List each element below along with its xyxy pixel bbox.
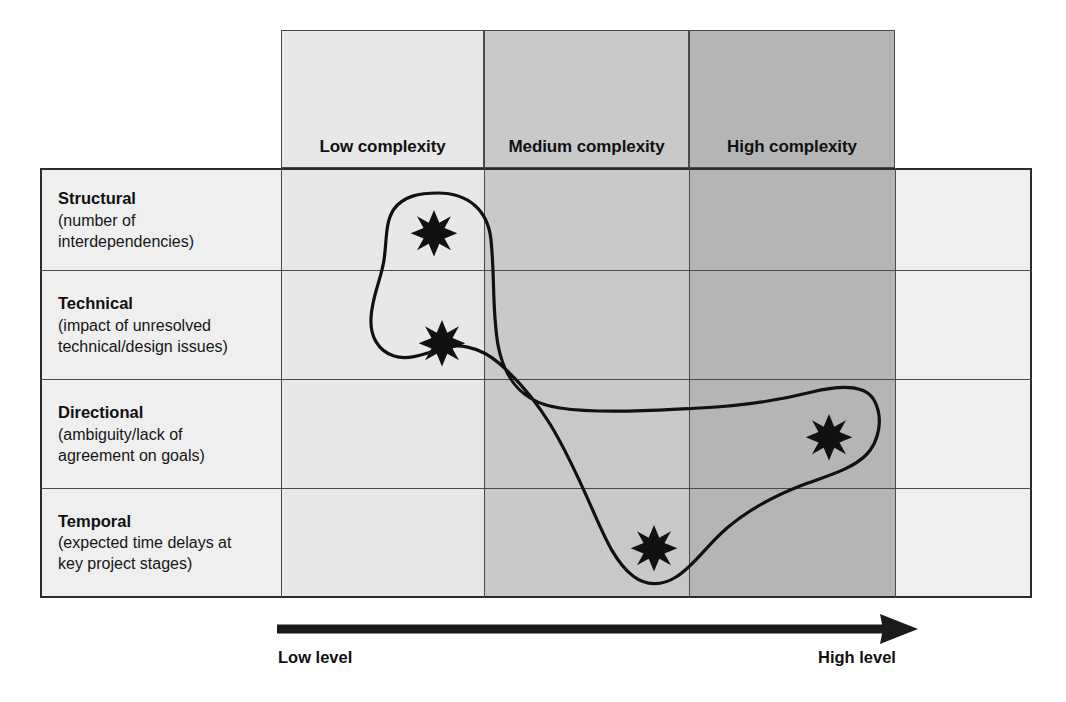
column-separator-high-trailing xyxy=(895,168,896,598)
column-header-label: High complexity xyxy=(727,137,857,157)
column-header-label: Low complexity xyxy=(319,137,445,157)
row-subtitle: (impact of unresolved technical/design i… xyxy=(58,315,281,357)
row-title: Directional xyxy=(58,402,281,424)
complexity-level-arrow xyxy=(277,614,918,644)
column-header-high-complexity: High complexity xyxy=(689,30,895,168)
column-separator-labels xyxy=(281,168,282,598)
row-title: Technical xyxy=(58,293,281,315)
row-label-directional: Directional (ambiguity/lack of agreement… xyxy=(42,380,281,488)
column-header-low-complexity: Low complexity xyxy=(281,30,484,168)
column-header-medium-complexity: Medium complexity xyxy=(484,30,689,168)
column-separator-medium-high xyxy=(689,168,690,598)
column-header-label: Medium complexity xyxy=(508,137,664,157)
column-separator-low-medium xyxy=(484,168,485,598)
row-label-technical: Technical (impact of unresolved technica… xyxy=(42,271,281,379)
row-label-temporal: Temporal (expected time delays at key pr… xyxy=(42,489,281,596)
axis-label-high-level: High level xyxy=(818,648,896,667)
axis-label-low-level: Low level xyxy=(278,648,352,667)
row-subtitle: (ambiguity/lack of agreement on goals) xyxy=(58,424,281,466)
trailing-column-fill xyxy=(895,170,1030,596)
diagram-canvas: Low complexity Medium complexity High co… xyxy=(0,0,1066,702)
row-title: Temporal xyxy=(58,511,281,533)
row-title: Structural xyxy=(58,188,281,210)
row-subtitle: (number of interdependencies) xyxy=(58,210,281,252)
row-subtitle: (expected time delays at key project sta… xyxy=(58,532,281,574)
row-label-structural: Structural (number of interdependencies) xyxy=(42,170,281,270)
